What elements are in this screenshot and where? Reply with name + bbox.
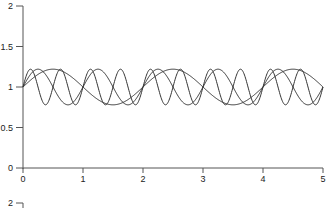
next-panel-y-axis [16, 203, 23, 208]
next-panel-y-tick-label: 2 [8, 198, 13, 208]
x-tick-label: 4 [260, 174, 265, 184]
x-tick-label: 2 [140, 174, 145, 184]
x-tick-label: 0 [20, 174, 25, 184]
x-tick-label: 1 [80, 174, 85, 184]
y-tick-label: 1 [8, 82, 13, 92]
x-tick-label: 5 [320, 174, 325, 184]
axes: 00.511.52012345 [0, 1, 325, 184]
line-chart: 00.511.52012345 2 [0, 0, 331, 208]
y-tick-label: 2 [8, 1, 13, 11]
y-tick-label: 0.5 [0, 123, 13, 133]
y-tick-label: 0 [8, 163, 13, 173]
y-tick-label: 1.5 [0, 42, 13, 52]
next-panel-axis: 2 [8, 198, 23, 208]
curves [23, 69, 323, 105]
x-tick-label: 3 [200, 174, 205, 184]
